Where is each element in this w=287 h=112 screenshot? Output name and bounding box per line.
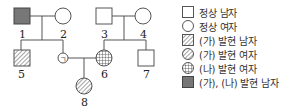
individual-6-label: 6 [101, 68, 108, 81]
square-hatched-icon [182, 34, 194, 46]
individual-1-label: 1 [19, 28, 26, 41]
individual-3-label: 3 [101, 28, 108, 41]
legend-item: 정상 남자 [182, 5, 279, 19]
legend: 정상 남자 정상 여자 (가) 발현 남자 (가) 발현 여자 (나) 발현 여… [182, 5, 279, 89]
individual-2-label: 2 [60, 28, 67, 41]
individual-1-symbol [14, 8, 30, 24]
legend-item: (나) 발현 여자 [182, 61, 279, 75]
legend-label: (가), (나) 발현 남자 [199, 75, 279, 90]
circle-empty-icon [182, 20, 194, 32]
individual-4-symbol [135, 8, 151, 24]
circle-hatched-icon [182, 48, 194, 60]
individual-7-label: 7 [143, 68, 150, 81]
legend-item: 정상 여자 [182, 19, 279, 33]
legend-item: (가), (나) 발현 남자 [182, 75, 279, 89]
legend-item: (가) 발현 여자 [182, 47, 279, 61]
mating-line-g-6 [68, 58, 96, 78]
legend-label: 정상 남자 [199, 5, 237, 20]
legend-label: (가) 발현 남자 [199, 33, 256, 48]
individual-8-label: 8 [81, 96, 88, 109]
individual-5-label: 5 [18, 68, 25, 81]
individual-3-symbol [96, 8, 112, 24]
square-filled-icon [182, 76, 194, 88]
individual-5-symbol [14, 50, 30, 66]
individual-7-symbol [138, 50, 154, 66]
legend-label: (가) 발현 여자 [199, 47, 256, 62]
individual-6-symbol [96, 50, 112, 66]
legend-label: (나) 발현 여자 [199, 61, 256, 76]
legend-label: 정상 여자 [199, 19, 237, 34]
legend-item: (가) 발현 남자 [182, 33, 279, 47]
circle-grid-icon [182, 62, 194, 74]
square-empty-icon [182, 6, 194, 18]
individual-8-symbol [76, 78, 92, 94]
individual-2-symbol [55, 8, 71, 24]
individual-4-label: 4 [140, 28, 147, 41]
individual-g-label: ㄱ [60, 56, 66, 64]
